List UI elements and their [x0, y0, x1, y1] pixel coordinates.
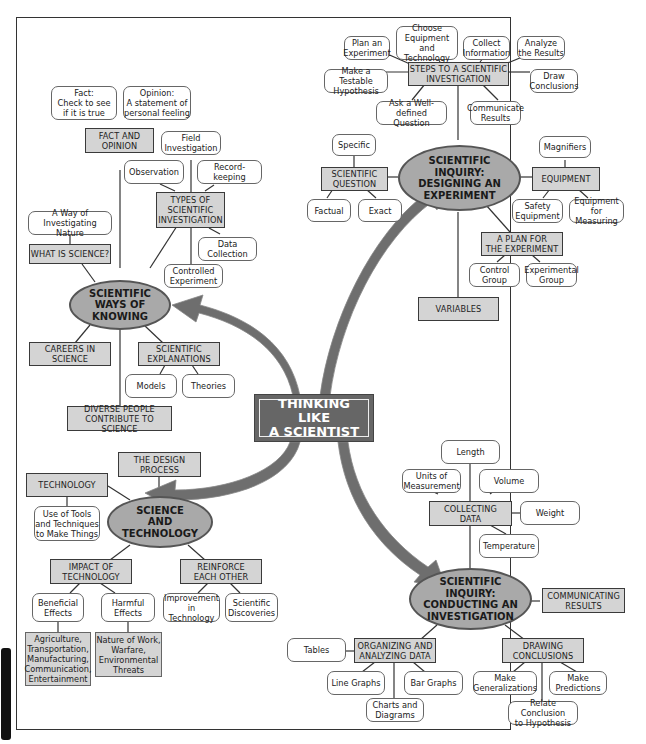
leaf-plan-experiment: Plan an Experiment	[344, 36, 390, 60]
leaf-equipment-measuring: Equipment for Measuring	[569, 199, 624, 223]
leaf-control-group: Control Group	[469, 263, 520, 287]
leaf-analyze-results: Analyze the Results	[517, 36, 565, 60]
leaf-improvement-technology: Improvement in Technology	[163, 593, 220, 622]
leaf-safety-equipment: Safety Equipment	[512, 199, 563, 223]
leaf-theories: Theories	[182, 374, 235, 398]
leaf-benefit-examples: Agriculture, Transportation, Manufacturi…	[25, 632, 91, 686]
node-scientific-question: SCIENTIFIC QUESTION	[321, 167, 388, 191]
leaf-ask-question: Ask a Well-defined Question	[376, 101, 447, 125]
node-variables: VARIABLES	[418, 297, 499, 321]
node-impact-technology: IMPACT OF TECHNOLOGY	[50, 559, 132, 584]
node-technology: TECHNOLOGY	[26, 473, 108, 497]
node-science-technology: SCIENCE AND TECHNOLOGY	[107, 496, 213, 548]
leaf-controlled-experiment: Controlled Experiment	[164, 264, 223, 288]
node-design-process: THE DESIGN PROCESS	[118, 452, 201, 477]
leaf-specific: Specific	[332, 134, 376, 156]
leaf-exact: Exact	[358, 199, 402, 222]
leaf-scientific-discoveries: Scientific Discoveries	[225, 593, 278, 622]
node-reinforce-each-other: REINFORCE EACH OTHER	[180, 559, 262, 584]
node-collecting-data: COLLECTING DATA	[429, 501, 512, 526]
leaf-beneficial-effects: Beneficial Effects	[32, 593, 84, 622]
node-conducting-investigation: SCIENTIFIC INQUIRY: CONDUCTING AN INVEST…	[409, 568, 532, 630]
leaf-fact: Fact: Check to see if it is true	[51, 86, 117, 120]
leaf-draw-conclusions: Draw Conclusions	[530, 69, 578, 93]
node-diverse-people: DIVERSE PEOPLE CONTRIBUTE TO SCIENCE	[67, 406, 172, 431]
leaf-experimental-group: Experimental Group	[526, 263, 577, 287]
leaf-make-predictions: Make Predictions	[549, 671, 607, 695]
leaf-record-keeping: Record-keeping	[197, 160, 262, 184]
leaf-models: Models	[125, 374, 177, 398]
leaf-tables: Tables	[287, 638, 346, 662]
leaf-units-measurement: Units of Measurement	[402, 469, 461, 493]
leaf-magnifiers: Magnifiers	[539, 136, 591, 158]
leaf-way-investigating-nature: A Way of Investigating Nature	[28, 211, 112, 235]
node-steps-investigation: STEPS TO A SCIENTIFIC INVESTIGATION	[408, 62, 509, 86]
leaf-factual: Factual	[307, 199, 351, 222]
node-types-investigation: TYPES OF SCIENTIFIC INVESTIGATION	[156, 192, 225, 228]
leaf-testable-hypothesis: Make a Testable Hypothesis	[324, 69, 388, 93]
leaf-choose-equipment: Choose Equipment and Technology	[396, 26, 458, 60]
node-designing-experiment: SCIENTIFIC INQUIRY: DESIGNING AN EXPERIM…	[398, 145, 521, 211]
leaf-charts-diagrams: Charts and Diagrams	[366, 698, 424, 722]
leaf-harmful-effects: Harmful Effects	[101, 593, 155, 622]
leaf-bar-graphs: Bar Graphs	[404, 671, 463, 695]
leaf-field-investigation: Field Investigation	[161, 131, 221, 155]
leaf-length: Length	[441, 440, 500, 464]
node-organizing-data: ORGANIZING AND ANALYZING DATA	[354, 638, 436, 663]
leaf-temperature: Temperature	[479, 534, 539, 558]
node-fact-opinion: FACT AND OPINION	[85, 128, 154, 153]
leaf-collect-information: Collect Information	[463, 36, 510, 60]
leaf-observation: Observation	[124, 160, 184, 184]
node-equipment: EQUIPMENT	[532, 167, 600, 191]
leaf-weight: Weight	[520, 501, 580, 525]
leaf-relate-conclusion: Relate Conclusion to Hypothesis	[508, 701, 578, 725]
leaf-harm-examples: Nature of Work, Warfare, Environmental T…	[95, 632, 162, 677]
leaf-line-graphs: Line Graphs	[327, 671, 385, 695]
node-plan-experiment: A PLAN FOR THE EXPERIMENT	[481, 232, 563, 256]
leaf-make-generalizations: Make Generalizations	[473, 671, 537, 695]
leaf-tools-techniques: Use of Tools and Techniques to Make Thin…	[34, 506, 100, 541]
node-ways-of-knowing: SCIENTIFIC WAYS OF KNOWING	[69, 280, 171, 330]
leaf-data-collection: Data Collection	[198, 237, 257, 261]
leaf-volume: Volume	[479, 469, 539, 493]
central-topic: THINKING LIKE A SCIENTIST	[254, 394, 374, 442]
leaf-communicate-results: Communicate Results	[470, 101, 521, 125]
central-topic-title: THINKING LIKE A SCIENTIST	[259, 399, 369, 437]
node-what-is-science: WHAT IS SCIENCE?	[29, 244, 111, 264]
node-communicating-results: COMMUNICATING RESULTS	[542, 588, 625, 613]
node-drawing-conclusions: DRAWING CONCLUSIONS	[502, 638, 584, 663]
node-scientific-explanations: SCIENTIFIC EXPLANATIONS	[138, 342, 220, 366]
leaf-opinion: Opinion: A statement of personal feeling	[123, 86, 191, 120]
node-careers-science: CAREERS IN SCIENCE	[29, 342, 111, 366]
